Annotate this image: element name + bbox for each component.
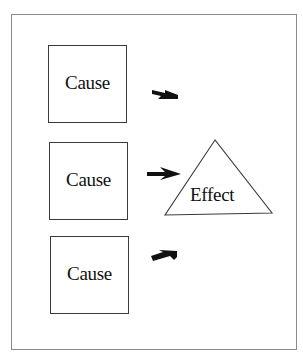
arrow-up-right-icon bbox=[151, 250, 177, 261]
arrow-down-right-icon bbox=[152, 90, 178, 99]
arrow-right-icon bbox=[147, 167, 181, 180]
effect-label: Effect bbox=[190, 184, 234, 206]
